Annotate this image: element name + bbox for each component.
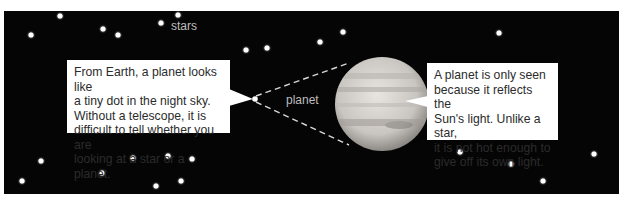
right-callout-line: give off its own light. (434, 155, 552, 170)
left-callout-line: From Earth, a planet looks like (74, 65, 224, 94)
left-callout-pointer (229, 89, 253, 106)
night-sky-panel: stars planet From Earth, a planet looks … (4, 11, 619, 194)
right-callout-box: A planet is only seen because it reflect… (427, 63, 558, 140)
left-callout-box: From Earth, a planet looks like a tiny d… (67, 60, 230, 133)
stars-label: stars (171, 19, 197, 33)
right-callout-line: Sun's light. Unlike a star, (434, 112, 552, 141)
right-callout-line: it is not hot enough to (434, 141, 552, 156)
left-callout-line: a tiny dot in the night sky. (74, 94, 224, 109)
planet-label: planet (286, 93, 319, 107)
left-callout-line: looking at a star or a planet. (74, 152, 224, 181)
planet-dot-icon (252, 96, 258, 102)
right-callout-line: A planet is only seen (434, 68, 552, 83)
right-callout-line: because it reflects the (434, 83, 552, 112)
left-callout-line: Without a telescope, it is (74, 109, 224, 124)
left-callout-line: difficult to tell whether you are (74, 123, 224, 152)
